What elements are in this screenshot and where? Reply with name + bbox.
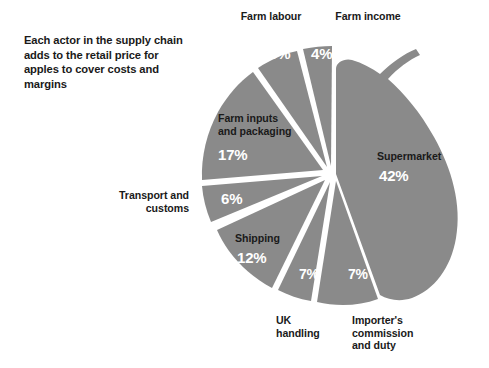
percent-supermarket: 42% [379,168,408,183]
label-shipping: Shipping [235,232,325,245]
label-farm-inputs-packaging: Farm inputs and packaging [218,112,328,137]
percent-farm-inputs-packaging: 17% [218,147,247,162]
label-importers-commission: Importer's commission and duty [352,314,450,352]
label-transport-customs: Transport and customs [108,189,189,214]
label-uk-handling: UK handling [276,314,342,339]
percent-shipping: 12% [237,250,266,265]
percent-farm-income: 4% [311,46,332,61]
percent-uk-handling: 7% [299,267,319,281]
label-farm-labour: Farm labour [225,10,317,23]
label-supermarket: Supermarket [377,150,475,163]
apple-pie-chart: Each actor in the supply chain adds to t… [0,0,489,368]
label-farm-income: Farm income [322,10,414,23]
percent-farm-labour: 5% [269,46,290,61]
percent-transport-customs: 6% [221,191,242,206]
percent-importers-commission: 7% [348,267,368,281]
chart-caption: Each actor in the supply chain adds to t… [24,33,189,91]
